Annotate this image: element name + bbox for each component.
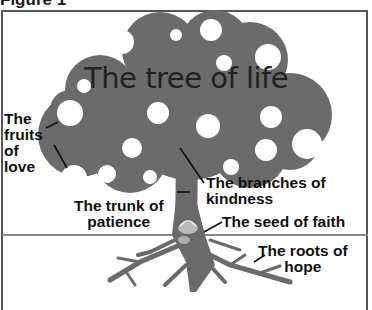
label-trunk: The trunk of patience: [74, 198, 164, 230]
label-seed: The seed of faith: [222, 214, 345, 230]
label-fruits: The fruits of love: [4, 111, 43, 175]
diagram-title: The tree of life: [83, 61, 288, 95]
label-roots: The roots of hope: [258, 243, 348, 275]
label-branches: The branches of kindness: [206, 175, 326, 207]
canopy: [38, 10, 332, 193]
